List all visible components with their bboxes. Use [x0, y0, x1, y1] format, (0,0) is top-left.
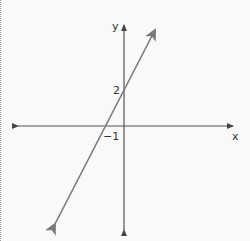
- x-axis-label: x: [232, 130, 239, 143]
- y-intercept-label: 2: [113, 84, 120, 97]
- y-axis-label: y: [112, 20, 119, 33]
- coordinate-plane: y x 2 −1: [0, 0, 250, 241]
- x-intercept-label: −1: [103, 130, 119, 143]
- graph-line: [55, 30, 155, 224]
